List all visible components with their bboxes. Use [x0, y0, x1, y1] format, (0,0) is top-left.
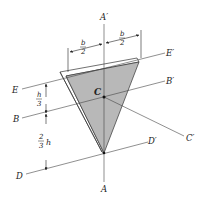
label-A-prime: A′: [99, 12, 108, 22]
label-D-prime: D′: [147, 136, 157, 146]
apex-point: [103, 152, 106, 155]
label-A: A: [100, 184, 107, 194]
label-E: E: [11, 85, 19, 95]
label-D: D: [15, 171, 23, 181]
frac-left-den: 2: [80, 48, 86, 56]
frac-2-3-num: 2: [38, 133, 44, 141]
frac-2-3-var: h: [46, 138, 51, 147]
frac-2-3-den: 3: [39, 142, 44, 150]
label-E-prime: E′: [165, 48, 174, 58]
label-C-prime: C′: [186, 133, 195, 143]
frac-right-num: b: [120, 30, 125, 38]
frac-h3-den: 3: [37, 100, 42, 108]
frac-left-num: b: [81, 39, 86, 47]
triangular-plate-diagram: A′ A E E′ B B′ C′ D D′ C b 2 b 2 h 3 2 3…: [0, 0, 203, 199]
axis-DD: [26, 142, 148, 174]
label-centroid: C: [94, 87, 102, 97]
label-B-prime: B′: [165, 76, 174, 86]
triangular-plate: [66, 62, 139, 153]
centroid-point: [103, 96, 106, 99]
frac-h3-num: h: [37, 91, 42, 99]
frac-right-den: 2: [119, 39, 125, 47]
label-B: B: [12, 114, 19, 124]
dim-left-half-base: [70, 44, 102, 52]
